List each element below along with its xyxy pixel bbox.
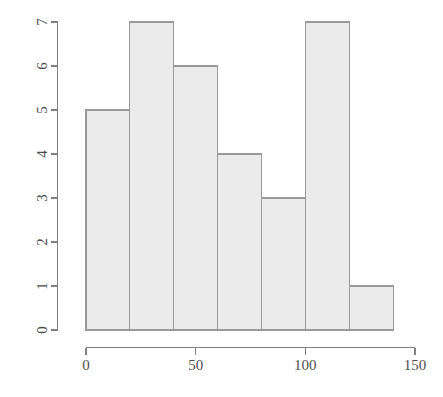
histogram-bar-rect [218, 154, 262, 330]
x-axis-tick-label: 50 [188, 357, 203, 373]
y-axis-tick-label: 1 [34, 282, 50, 290]
y-axis-tick-label: 0 [34, 326, 50, 334]
histogram-bar [86, 110, 130, 330]
y-axis-tick-label: 6 [34, 62, 50, 70]
histogram-bar [174, 66, 218, 330]
y-axis-tick-label: 3 [34, 194, 50, 202]
x-axis-tick-label: 150 [404, 357, 427, 373]
histogram-bar-rect [305, 22, 349, 330]
y-axis-tick-label: 2 [34, 238, 50, 246]
histogram-bar-rect [349, 286, 393, 330]
histogram-bar-rect [130, 22, 174, 330]
x-axis-tick-label: 0 [82, 357, 90, 373]
y-axis-tick-label: 7 [34, 18, 50, 26]
histogram-bar [130, 22, 174, 330]
histogram-bar-rect [174, 66, 218, 330]
histogram-svg: 01234567050100150 [0, 0, 443, 397]
histogram-bar [261, 198, 305, 330]
x-axis-tick-label: 100 [294, 357, 317, 373]
histogram-bar [218, 154, 262, 330]
histogram-bar [349, 286, 393, 330]
histogram-bar [305, 22, 349, 330]
histogram-bar-rect [261, 198, 305, 330]
y-axis-tick-label: 5 [34, 106, 50, 114]
histogram-bar-rect [86, 110, 130, 330]
y-axis-tick-label: 4 [34, 150, 50, 158]
histogram-plot-area: 01234567050100150 [0, 0, 443, 397]
